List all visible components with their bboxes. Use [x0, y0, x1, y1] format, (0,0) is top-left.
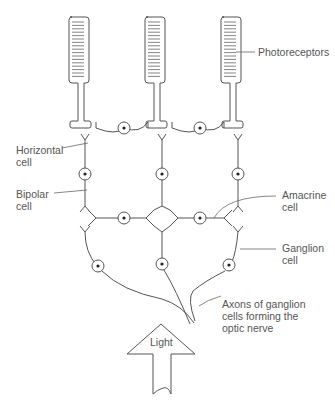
- label-axons-2: cells forming the: [222, 310, 299, 322]
- light-arrow: Light: [127, 324, 195, 394]
- photoreceptor-left: [69, 17, 91, 128]
- retina-diagram: Photoreceptors Horizontal cell Bipolar c…: [0, 0, 335, 408]
- horizontal-cell-left: [96, 122, 148, 134]
- bipolar-cell-left: [79, 134, 91, 212]
- synapse-right: [224, 210, 243, 232]
- label-amacrine-2: cell: [282, 201, 298, 213]
- label-bipolar-1: Bipolar: [16, 188, 49, 200]
- horizontal-cell-right: [172, 122, 224, 134]
- label-photoreceptors: Photoreceptors: [258, 46, 329, 58]
- label-ganglion-1: Ganglion: [282, 242, 324, 254]
- label-ganglion-2: cell: [282, 254, 298, 266]
- label-horizontal-2: cell: [16, 156, 32, 168]
- disc-stack-left: [72, 22, 84, 76]
- label-amacrine-1: Amacrine: [282, 189, 327, 201]
- synapse-left: [80, 210, 96, 232]
- amacrine-cell-left: [96, 212, 146, 224]
- leader-bipolar: [54, 190, 87, 193]
- label-light: Light: [150, 336, 173, 348]
- leader-amacrine: [214, 196, 276, 218]
- leader-axons: [199, 296, 221, 306]
- ganglion-cell-left: [85, 232, 194, 323]
- label-bipolar-2: cell: [16, 200, 32, 212]
- synapse-middle: [146, 206, 178, 232]
- label-axons-3: optic nerve: [222, 322, 274, 334]
- disc-stack-right: [224, 22, 236, 76]
- leader-horizontal: [62, 143, 88, 148]
- disc-stack-middle: [148, 22, 160, 76]
- photoreceptor-middle: [145, 17, 167, 128]
- label-axons-1: Axons of ganglion: [222, 298, 306, 310]
- bipolar-cell-middle: [156, 134, 168, 206]
- photoreceptor-right: [221, 17, 243, 128]
- label-horizontal-1: Horizontal: [16, 144, 63, 156]
- ganglion-cell-middle: [156, 232, 190, 324]
